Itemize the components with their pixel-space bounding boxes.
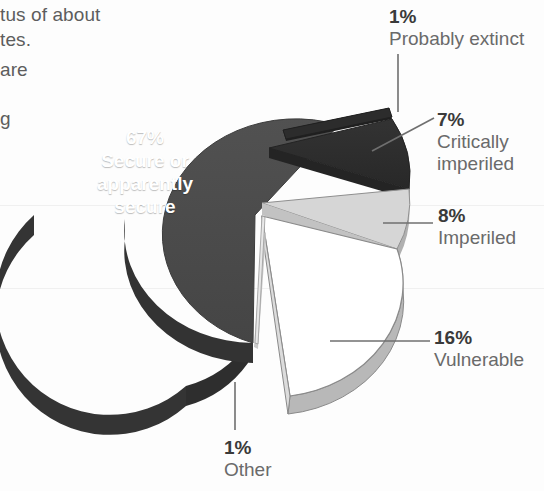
callout-other: 1% Other — [224, 437, 272, 481]
callout-vulnerable-caption: Vulnerable — [434, 349, 524, 371]
callout-critically-imperiled: 7% Critically imperiled — [437, 109, 514, 175]
callout-imperiled: 8% Imperiled — [438, 205, 516, 249]
callout-imperiled-percent: 8% — [438, 205, 516, 227]
callout-critically-imperiled-caption-line1: Critically — [437, 131, 514, 153]
callout-vulnerable: 16% Vulnerable — [434, 327, 524, 371]
callout-vulnerable-percent: 16% — [434, 327, 524, 349]
callout-probably-extinct-caption: Probably extinct — [389, 28, 524, 50]
callout-other-percent: 1% — [224, 437, 272, 459]
callout-probably-extinct-percent: 1% — [389, 6, 524, 28]
slice-label-secure-line3: secure — [52, 195, 238, 218]
slice-other — [254, 216, 266, 349]
callout-critically-imperiled-percent: 7% — [437, 109, 514, 131]
slice-other-top — [255, 216, 265, 344]
slice-label-secure: 67% Secure or apparently secure — [52, 126, 238, 218]
callout-imperiled-caption: Imperiled — [438, 227, 516, 249]
callout-critically-imperiled-caption-line2: imperiled — [437, 153, 514, 175]
slice-label-secure-percent: 67% — [52, 126, 238, 149]
callout-probably-extinct: 1% Probably extinct — [389, 6, 524, 50]
pie-chart-figure: tus of about tes. are g — [0, 0, 544, 491]
slice-label-secure-line2: apparently — [52, 172, 238, 195]
slice-vulnerable — [262, 216, 404, 414]
callout-other-caption: Other — [224, 459, 272, 481]
slice-label-secure-line1: Secure or — [52, 149, 238, 172]
